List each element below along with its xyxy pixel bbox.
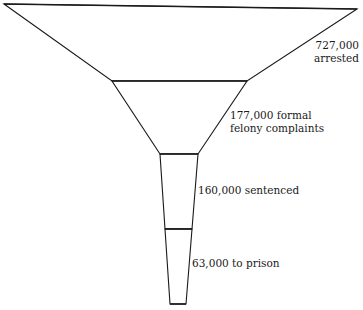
label-arrested-count: 727,000 [314, 39, 359, 52]
funnel-stage-formal-felony-complaints [112, 81, 247, 154]
label-sentenced: 160,000 sentenced [198, 184, 299, 197]
label-complaints-line2: felony complaints [230, 122, 324, 135]
funnel-stage-sentenced [160, 154, 198, 229]
label-to-prison: 63,000 to prison [192, 257, 280, 270]
label-arrested-text: arrested [314, 52, 359, 65]
label-sentenced-text: 160,000 sentenced [198, 184, 299, 197]
label-arrested: 727,000 arrested [314, 39, 359, 65]
label-to-prison-text: 63,000 to prison [192, 257, 280, 270]
funnel-diagram [0, 0, 363, 310]
label-formal-felony-complaints: 177,000 formal felony complaints [230, 109, 324, 135]
funnel-stage-to-prison [165, 229, 192, 304]
funnel-stage-arrested [4, 4, 357, 81]
label-complaints-line1: 177,000 formal [230, 109, 324, 122]
